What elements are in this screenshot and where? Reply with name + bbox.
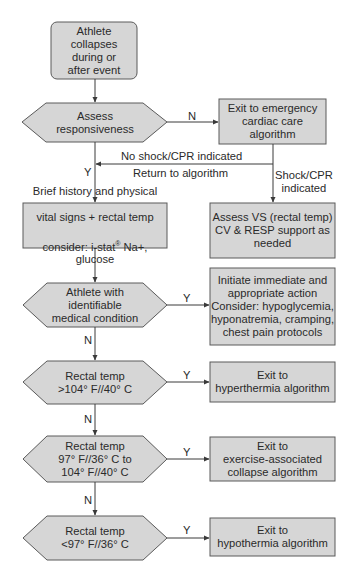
- exit-emergency-node: Exit to emergency cardiac care algorithm: [219, 99, 326, 144]
- label-high-no: N: [84, 413, 92, 426]
- label-mid-no: N: [84, 494, 92, 507]
- label-shock-cpr: Shock/CPR indicated: [275, 169, 333, 195]
- label-high-yes: Y: [183, 369, 190, 382]
- assess-responsiveness-node: Assess responsiveness: [40, 103, 150, 142]
- temp-high-node: Rectal temp >104° F//40° C: [40, 361, 150, 404]
- temp-low-text: Rectal temp <97° F//36° C: [61, 525, 129, 551]
- brief-history-node: Brief history and physical vital signs +…: [23, 203, 167, 248]
- label-return-to-algorithm: Return to algorithm: [133, 167, 228, 180]
- exit-eac-node: Exit to exercise-associated collapse alg…: [210, 437, 335, 481]
- brief-history-line-3-pre: consider: i-stat: [43, 240, 116, 252]
- temp-mid-text: Rectal temp 97° F//36° C to 104° F//40° …: [58, 440, 132, 479]
- exit-hypothermia-node: Exit to hypothermia algorithm: [210, 518, 335, 556]
- exit-hypothermia-text: Exit to hypothermia algorithm: [217, 524, 328, 550]
- brief-history-text: Brief history and physical vital signs +…: [23, 172, 167, 280]
- brief-history-line-1: Brief history and physical: [23, 185, 167, 198]
- assess-vs-text: Assess VS (rectal temp) CV & RESP suppor…: [213, 211, 333, 250]
- exit-emergency-text: Exit to emergency cardiac care algorithm: [228, 102, 318, 141]
- temp-mid-node: Rectal temp 97° F//36° C to 104° F//40° …: [40, 436, 150, 482]
- initiate-action-text: Initiate immediate and appropriate actio…: [211, 274, 334, 339]
- label-medical-yes: Y: [183, 292, 190, 305]
- temp-high-text: Rectal temp >104° F//40° C: [58, 370, 132, 396]
- medical-condition-node: Athlete with identifiable medical condit…: [40, 283, 150, 327]
- exit-hyperthermia-text: Exit to hyperthermia algorithm: [215, 369, 329, 395]
- initiate-action-node: Initiate immediate and appropriate actio…: [210, 268, 335, 345]
- brief-history-line-3: consider: i-stat® Na+, glucose: [23, 237, 167, 267]
- brief-history-line-2: vital signs + rectal temp: [23, 211, 167, 224]
- label-mid-yes: Y: [183, 446, 190, 459]
- medical-condition-text: Athlete with identifiable medical condit…: [52, 286, 138, 325]
- exit-eac-text: Exit to exercise-associated collapse alg…: [223, 440, 322, 479]
- assess-vs-node: Assess VS (rectal temp) CV & RESP suppor…: [210, 203, 335, 258]
- start-node: Athlete collapses during or after event: [51, 22, 137, 79]
- label-assess-no: N: [188, 110, 196, 123]
- label-low-yes: Y: [183, 524, 190, 537]
- assess-responsiveness-text: Assess responsiveness: [56, 110, 134, 136]
- temp-low-node: Rectal temp <97° F//36° C: [40, 516, 150, 560]
- flowchart-canvas: Athlete collapses during or after event …: [0, 0, 354, 575]
- label-medical-no: N: [84, 334, 92, 347]
- label-no-shock: No shock/CPR indicated: [121, 150, 242, 163]
- start-node-text: Athlete collapses during or after event: [68, 25, 121, 77]
- exit-hyperthermia-node: Exit to hyperthermia algorithm: [210, 362, 335, 402]
- label-assess-yes: Y: [84, 166, 91, 179]
